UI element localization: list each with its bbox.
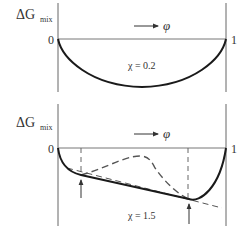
unstable-region-curve [81, 156, 189, 199]
top-x-start-label: 0 [48, 33, 54, 47]
top-phi-label: φ [163, 18, 170, 33]
bottom-ylabel: ΔG [16, 115, 35, 130]
top-ylabel: ΔG [16, 7, 35, 22]
bottom-x-end-label: 1 [231, 142, 237, 156]
bottom-ylabel-sub: mix [40, 123, 52, 132]
top-ylabel-sub: mix [40, 15, 52, 24]
top-x-end-label: 1 [231, 33, 237, 47]
bottom-panel: ΔG mix φ 0 1 χ = 1.5 [16, 104, 237, 226]
free-energy-diagram: ΔG mix φ 0 1 χ = 0.2 ΔG mix φ 0 1 χ = 1.… [0, 0, 244, 236]
top-panel: ΔG mix φ 0 1 χ = 0.2 [16, 3, 237, 92]
top-chi-label: χ = 0.2 [127, 60, 156, 71]
bottom-x-start-label: 0 [48, 142, 54, 156]
common-tangent-line [67, 168, 222, 208]
bottom-phi-label: φ [163, 126, 170, 141]
bottom-chi-label: χ = 1.5 [127, 210, 156, 221]
